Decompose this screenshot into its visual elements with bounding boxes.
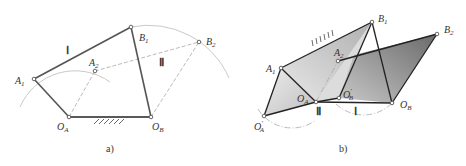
position-label-i: Ⅰ (66, 44, 69, 56)
label-oa: OA (57, 121, 69, 134)
dashed-link-ob-b2 (151, 42, 199, 117)
label-a1: A1 (265, 63, 276, 76)
label-ob: OB (400, 99, 412, 112)
panel-b: A1 A2 B1 B2 OA O′B OB O′A Ⅱ Ⅰ b) (254, 13, 454, 155)
label-oa-prime: O′A (254, 119, 265, 134)
panel-a: A1 A2 B1 B2 OA OB Ⅰ Ⅱ a) (14, 25, 229, 155)
caption-b: b) (339, 143, 347, 155)
dashed-link-oa-a2 (69, 71, 95, 117)
ground-link (316, 102, 392, 103)
pin-a1 (32, 77, 36, 81)
pin-oa-prime (262, 114, 266, 118)
ground-hatch-icon (94, 119, 124, 124)
pin-ob (390, 101, 394, 105)
position-label-ii: Ⅱ (159, 56, 164, 68)
arc-b-trajectory (131, 25, 229, 78)
label-b1: B1 (378, 13, 388, 26)
pin-oa (314, 100, 318, 104)
pin-b2 (435, 32, 439, 36)
pin-b1 (129, 25, 133, 29)
link-oa-a1 (34, 79, 69, 117)
pin-a1 (279, 66, 283, 70)
pin-oa (67, 115, 71, 119)
arc-a-trajectory (20, 71, 110, 107)
arc-ob-prime (336, 103, 392, 115)
pin-b1 (370, 20, 374, 24)
label-b2: B2 (444, 24, 454, 37)
label-a2: A2 (88, 57, 99, 70)
pin-ob (149, 115, 153, 119)
dashed-coupler-a2-b2 (95, 42, 199, 71)
label-a1: A1 (14, 75, 25, 88)
label-b1: B1 (139, 32, 149, 45)
pin-ob-prime (337, 96, 341, 100)
label-ob: OB (152, 121, 164, 134)
four-bar-linkage-diagram: A1 A2 B1 B2 OA OB Ⅰ Ⅱ a) (0, 0, 466, 166)
pin-b2 (197, 40, 201, 44)
caption-a: a) (106, 143, 114, 155)
position-label-i: Ⅰ (354, 105, 357, 117)
position-label-ii: Ⅱ (316, 105, 321, 117)
label-b2: B2 (206, 36, 216, 49)
